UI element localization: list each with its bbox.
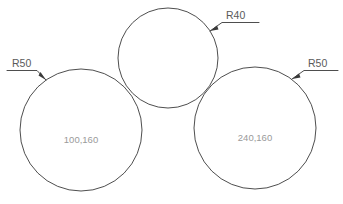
center-label-left: 100,160 [64,134,98,145]
right-arrow-icon [292,74,301,80]
technical-drawing-canvas: 100,160 240,160 R50 R40 R50 [0,0,343,204]
left-radius-label: R50 [12,57,31,69]
top-radius-annotation: R40 [210,9,259,31]
center-label-right: 240,160 [238,132,272,143]
right-radius-annotation: R50 [292,57,338,79]
top-radius-label: R40 [226,9,245,21]
circle-top [118,8,218,108]
circle-left [20,69,142,191]
top-arrow-icon [210,26,219,32]
right-radius-label: R50 [308,57,327,69]
drawing-svg: 100,160 240,160 R50 R40 R50 [0,0,343,204]
left-radius-annotation: R50 [7,57,46,80]
circle-right [194,67,316,189]
